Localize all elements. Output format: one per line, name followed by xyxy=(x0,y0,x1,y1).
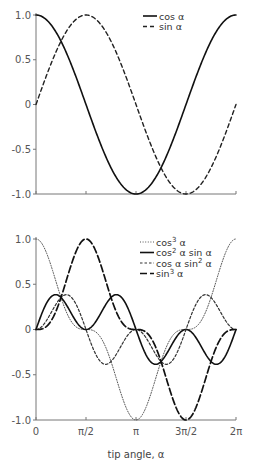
y-tick-label: -0.5 xyxy=(11,369,31,380)
x-tick-label: 2π xyxy=(230,426,242,437)
y-tick-label: -1.0 xyxy=(11,415,31,426)
x-tick-label: π xyxy=(133,426,139,437)
legend-label: cos α xyxy=(159,11,184,22)
y-tick-label: 0 xyxy=(25,99,31,110)
y-tick-label: -0.5 xyxy=(11,144,31,155)
series-line-1 xyxy=(36,15,236,194)
legend-label: sin3 α xyxy=(156,268,183,280)
y-tick-label: 1.0 xyxy=(15,10,31,21)
legend-label: cos2 α sin α xyxy=(156,247,212,259)
y-tick-label: 0 xyxy=(25,324,31,335)
legend-label: cos α sin2 α xyxy=(156,257,212,269)
x-tick-label: π/2 xyxy=(78,426,94,437)
y-tick-label: 0.5 xyxy=(15,279,31,290)
legend-label: sin α xyxy=(159,21,182,32)
legend-label: cos3 α xyxy=(156,236,186,248)
y-tick-label: 0.5 xyxy=(15,54,31,65)
y-tick-label: -1.0 xyxy=(11,189,31,200)
x-axis-title: tip angle, α xyxy=(108,449,165,460)
y-tick-label: 1.0 xyxy=(15,234,31,245)
chart-figure: 1.00.50-0.5-1.0cos αsin α1.00.50-0.5-1.0… xyxy=(0,0,254,463)
x-tick-label: 0 xyxy=(33,426,39,437)
x-tick-label: 3π/2 xyxy=(175,426,197,437)
